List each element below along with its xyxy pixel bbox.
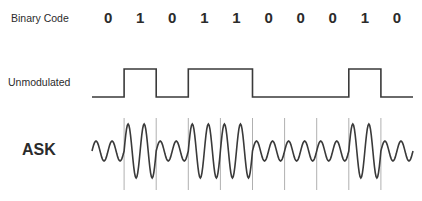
signal-plot <box>0 0 422 201</box>
ask-modulation-diagram: Binary Code Unmodulated ASK 0 1 0 1 1 0 … <box>0 0 422 201</box>
unmodulated-square-wave <box>92 69 413 97</box>
